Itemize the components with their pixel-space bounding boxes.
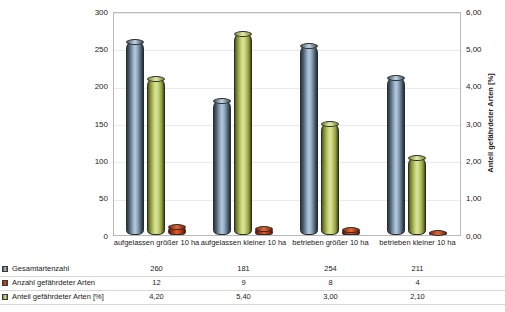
table-cell: 4 <box>374 277 461 289</box>
bar[interactable] <box>147 78 165 235</box>
y-tick-label-left: 50 <box>66 194 108 203</box>
y-tick-label-right: 3,00 <box>466 120 505 129</box>
y-tick-label-right: 6,00 <box>466 8 505 17</box>
bar-group <box>114 13 201 235</box>
bar-group <box>288 13 375 235</box>
bar-cap <box>408 155 426 161</box>
plot-area <box>113 12 461 236</box>
bar[interactable] <box>429 232 447 235</box>
table-row: Anteil gefährdeter Arten [%]4,205,403,00… <box>0 290 505 305</box>
bar[interactable] <box>255 228 273 235</box>
bar-cap <box>213 98 231 104</box>
table-cell: 2,10 <box>374 291 461 303</box>
y-tick-label-left: 150 <box>66 120 108 129</box>
bar[interactable] <box>234 33 252 235</box>
x-category-label: aufgelassen kleiner 10 ha <box>200 238 287 248</box>
table-row: Gesamtartenzahl260181254211 <box>0 262 505 277</box>
y-tick-label-right: 4,00 <box>466 82 505 91</box>
bar[interactable] <box>126 41 144 235</box>
legend-swatch-icon <box>2 266 8 272</box>
bar[interactable] <box>408 157 426 235</box>
bar-cap <box>429 230 447 236</box>
x-category-label: aufgelassen größer 10 ha <box>113 238 200 248</box>
table-cell: 9 <box>200 277 287 289</box>
data-table: Gesamtartenzahl260181254211Anzahl gefähr… <box>0 262 505 310</box>
table-cell: 5,40 <box>200 291 287 303</box>
bar-cap <box>342 227 360 233</box>
x-axis-category-labels: aufgelassen größer 10 haaufgelassen klei… <box>113 238 461 262</box>
legend-swatch-icon <box>2 294 8 300</box>
bar-cap <box>255 226 273 232</box>
y-tick-label-left: 200 <box>66 82 108 91</box>
chart-container: Artenzahl Anteil gefährdeter Arten [%] 0… <box>0 0 505 312</box>
bar-cap <box>147 76 165 82</box>
table-cell: 12 <box>113 277 200 289</box>
y-tick-label-right: 1,00 <box>466 194 505 203</box>
legend-swatch-icon <box>2 280 8 286</box>
y-tick-label-right: 0,00 <box>466 232 505 241</box>
table-row-label: Gesamtartenzahl <box>12 263 69 275</box>
bar[interactable] <box>168 226 186 235</box>
y-tick-label-left: 0 <box>66 232 108 241</box>
table-cell: 4,20 <box>113 291 200 303</box>
table-cell: 3,00 <box>287 291 374 303</box>
bar[interactable] <box>300 45 318 235</box>
bar[interactable] <box>387 77 405 235</box>
y-tick-label-left: 300 <box>66 8 108 17</box>
bar-cap <box>234 31 252 37</box>
y-tick-label-right: 5,00 <box>466 45 505 54</box>
bar-cap <box>321 121 339 127</box>
bar[interactable] <box>321 123 339 235</box>
table-cell: 8 <box>287 277 374 289</box>
bar-cap <box>387 75 405 81</box>
bar-group <box>201 13 288 235</box>
bar[interactable] <box>213 100 231 235</box>
bar-cap <box>126 39 144 45</box>
y-tick-label-left: 250 <box>66 45 108 54</box>
y-tick-label-left: 100 <box>66 157 108 166</box>
bar-cap <box>300 43 318 49</box>
bar[interactable] <box>342 229 360 235</box>
table-cell: 254 <box>287 263 374 275</box>
table-cell: 260 <box>113 263 200 275</box>
table-cell: 211 <box>374 263 461 275</box>
table-row-label: Anteil gefährdeter Arten [%] <box>12 291 104 303</box>
table-row: Anzahl gefährdeter Arten12984 <box>0 276 505 291</box>
y-tick-label-right: 2,00 <box>466 157 505 166</box>
x-category-label: betrieben größer 10 ha <box>287 238 374 248</box>
bar-cap <box>168 224 186 230</box>
x-category-label: betrieben kleiner 10 ha <box>374 238 461 248</box>
table-row-label: Anzahl gefährdeter Arten <box>12 277 95 289</box>
bar-group <box>375 13 462 235</box>
table-cell: 181 <box>200 263 287 275</box>
